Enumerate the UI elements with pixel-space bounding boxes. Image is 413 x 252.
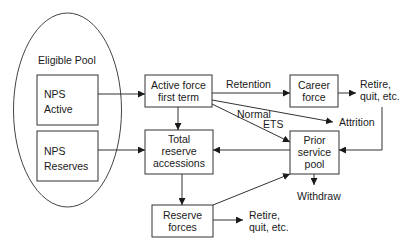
nps-reserves-line1: NPS [44, 145, 66, 157]
total-reserve-line2: reserve [161, 145, 196, 157]
retention-label: Retention [226, 78, 271, 90]
total-reserve-line1: Total [168, 133, 190, 145]
node-nps-active: NPS Active [37, 75, 98, 125]
node-career-force: Career force [290, 75, 338, 107]
node-reserve-forces: Reserve forces [152, 205, 213, 237]
nps-active-line1: NPS [44, 88, 66, 100]
edge-reserve-forces-to-prior-service [213, 174, 290, 205]
prior-service-line2: service [298, 146, 331, 158]
nps-reserves-line2: Reserves [44, 160, 88, 172]
node-active-force-first-term: Active force first term [145, 75, 212, 107]
edge-retire-to-prior-service [339, 107, 382, 150]
node-nps-reserves: NPS Reserves [37, 131, 98, 181]
prior-service-line3: pool [305, 158, 325, 170]
active-force-line2: first term [158, 91, 199, 103]
career-force-line2: force [302, 91, 326, 103]
ets-label: ETS [263, 118, 283, 130]
total-reserve-line3: accessions [153, 157, 205, 169]
reserve-exit-line1: Retire, [249, 209, 280, 221]
attrition-label: Attrition [339, 116, 375, 128]
career-exit-line2: quit, etc. [360, 90, 400, 102]
withdraw-label: Withdraw [297, 190, 341, 202]
eligible-pool-label: Eligible Pool [38, 54, 96, 66]
reserve-forces-line1: Reserve [163, 209, 202, 221]
nps-active-line2: Active [44, 103, 73, 115]
flow-diagram: Eligible Pool NPS Active NPS Reserves Ac… [0, 0, 413, 252]
node-prior-service-pool: Prior service pool [290, 131, 339, 174]
career-exit-line1: Retire, [360, 78, 391, 90]
reserve-forces-line2: forces [168, 221, 197, 233]
reserve-exit-line2: quit, etc. [249, 221, 289, 233]
node-total-reserve-accessions: Total reserve accessions [145, 130, 213, 174]
career-force-line1: Career [298, 79, 331, 91]
active-force-line1: Active force [151, 79, 206, 91]
prior-service-line1: Prior [303, 134, 326, 146]
